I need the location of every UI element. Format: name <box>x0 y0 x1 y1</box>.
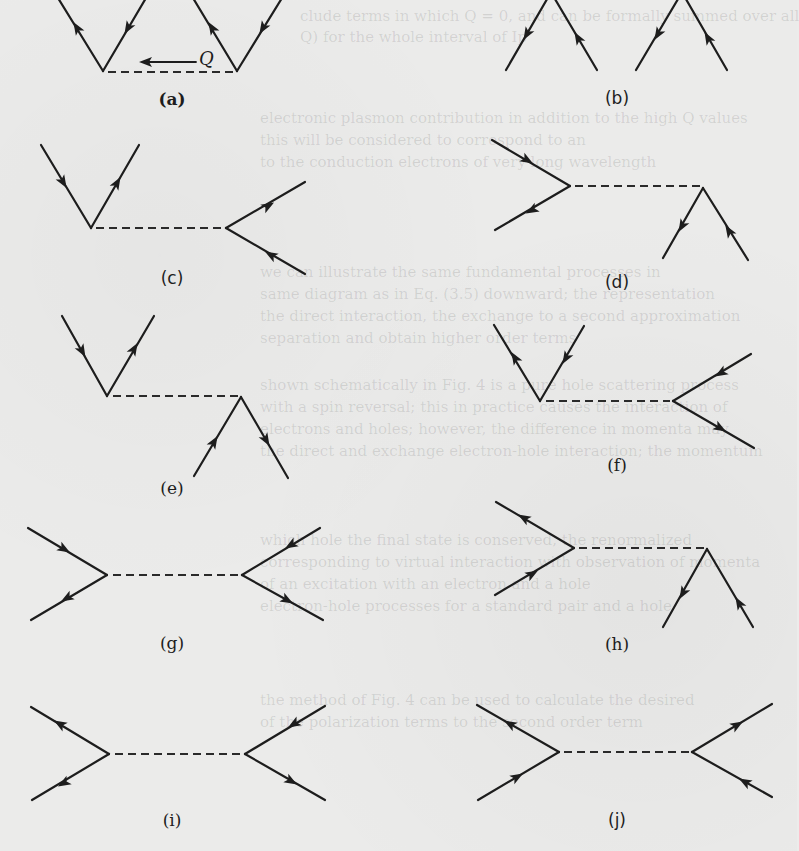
panel-e-diagram <box>62 316 288 478</box>
panel-label-i: (i) <box>163 810 182 830</box>
panel-label-c: (c) <box>161 268 184 288</box>
panel-g-diagram <box>28 528 323 620</box>
panel-c-diagram <box>41 145 305 274</box>
panel-label-d: (d) <box>605 272 629 292</box>
panel-h-diagram <box>495 502 753 627</box>
panel-a-diagram <box>58 0 282 72</box>
panel-i-diagram <box>31 706 325 800</box>
panel-label-e: (e) <box>160 478 183 498</box>
panel-f-diagram <box>494 325 754 448</box>
panel-d-diagram <box>492 140 748 260</box>
momentum-label-q: Q <box>199 48 214 69</box>
panel-label-h: (h) <box>605 634 629 654</box>
panel-label-g: (g) <box>160 633 184 653</box>
panel-label-a: (a) <box>158 89 185 109</box>
panel-b-diagram <box>506 0 727 70</box>
panel-label-b: (b) <box>605 88 629 108</box>
panel-label-f: (f) <box>607 455 627 475</box>
panel-label-j: (j) <box>608 810 626 830</box>
panel-j-diagram <box>477 704 772 800</box>
